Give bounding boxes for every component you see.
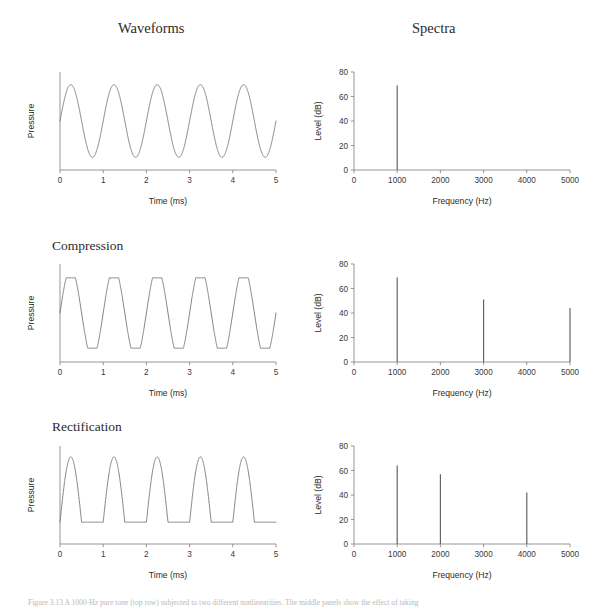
y-tick-label: 40 — [339, 309, 349, 318]
y-axis-title: Level (dB) — [313, 293, 323, 332]
x-axis-title: Frequency (Hz) — [432, 388, 491, 398]
y-axis-ticks: 020406080 — [339, 260, 354, 367]
x-tick-label: 5 — [274, 368, 279, 377]
panel-waveform-compression: 012345Time (ms)Pressure — [14, 254, 286, 402]
plot-waveform-compression: 012345Time (ms)Pressure — [14, 254, 286, 402]
x-tick-label: 0 — [58, 550, 63, 559]
x-axis-title: Time (ms) — [149, 570, 187, 580]
spectrum-peaks — [397, 277, 570, 362]
x-tick-label: 1 — [101, 550, 106, 559]
panel-spectrum-rectification: 010002000300040005000020406080Frequency … — [308, 436, 580, 584]
y-tick-label: 20 — [339, 334, 349, 343]
waveform-trace — [60, 278, 276, 348]
x-tick-label: 4 — [231, 368, 236, 377]
x-tick-label: 3 — [187, 176, 192, 185]
x-tick-label: 0 — [58, 176, 63, 185]
waveform-trace — [60, 85, 276, 158]
x-tick-label: 5 — [274, 550, 279, 559]
x-tick-label: 0 — [352, 368, 357, 377]
y-tick-label: 40 — [339, 117, 349, 126]
panel-waveform-pure-tone: 012345Time (ms)Pressure — [14, 62, 286, 210]
column-header-waveforms: Waveforms — [118, 20, 184, 37]
y-tick-label: 60 — [339, 285, 349, 294]
x-tick-label: 4 — [231, 550, 236, 559]
x-axis-title: Frequency (Hz) — [432, 570, 491, 580]
plot-spectrum-pure-tone: 010002000300040005000020406080Frequency … — [308, 62, 580, 210]
y-tick-label: 80 — [339, 442, 349, 451]
x-axis-ticks: 012345 — [58, 544, 279, 559]
figure-root: Waveforms Spectra Compression Rectificat… — [0, 0, 597, 610]
x-tick-label: 1000 — [388, 368, 407, 377]
y-tick-label: 0 — [343, 358, 348, 367]
x-tick-label: 2000 — [431, 176, 450, 185]
column-header-spectra: Spectra — [412, 20, 455, 37]
x-tick-label: 5000 — [561, 368, 580, 377]
x-tick-label: 1 — [101, 368, 106, 377]
y-axis-ticks: 020406080 — [339, 68, 354, 175]
x-tick-label: 2 — [144, 368, 149, 377]
x-axis-ticks: 012345 — [58, 170, 279, 185]
panel-spectrum-pure-tone: 010002000300040005000020406080Frequency … — [308, 62, 580, 210]
spectrum-peaks — [397, 466, 527, 544]
x-axis-ticks: 010002000300040005000 — [352, 362, 580, 377]
x-tick-label: 3000 — [474, 550, 493, 559]
x-axis-ticks: 010002000300040005000 — [352, 544, 580, 559]
x-tick-label: 3000 — [474, 368, 493, 377]
x-tick-label: 0 — [352, 550, 357, 559]
row-label-rectification: Rectification — [52, 419, 122, 435]
row-label-compression: Compression — [52, 238, 123, 254]
x-tick-label: 0 — [352, 176, 357, 185]
x-tick-label: 4 — [231, 176, 236, 185]
y-tick-label: 60 — [339, 467, 349, 476]
y-axis-title: Level (dB) — [313, 101, 323, 140]
x-tick-label: 4000 — [518, 368, 537, 377]
x-axis-ticks: 012345 — [58, 362, 279, 377]
axes — [60, 446, 276, 544]
plot-spectrum-compression: 010002000300040005000020406080Frequency … — [308, 254, 580, 402]
y-axis-ticks: 020406080 — [339, 442, 354, 549]
x-axis-ticks: 010002000300040005000 — [352, 170, 580, 185]
panel-spectrum-compression: 010002000300040005000020406080Frequency … — [308, 254, 580, 402]
y-axis-title: Pressure — [26, 296, 36, 331]
x-tick-label: 2 — [144, 176, 149, 185]
x-tick-label: 0 — [58, 368, 63, 377]
x-tick-label: 4000 — [518, 176, 537, 185]
panel-waveform-rectification: 012345Time (ms)Pressure — [14, 436, 286, 584]
x-tick-label: 1000 — [388, 550, 407, 559]
x-tick-label: 3000 — [474, 176, 493, 185]
y-axis-title: Level (dB) — [313, 475, 323, 514]
y-tick-label: 0 — [343, 540, 348, 549]
axes — [354, 446, 570, 544]
plot-waveform-pure-tone: 012345Time (ms)Pressure — [14, 62, 286, 210]
figure-caption: Figure 3.13 A 1000-Hz pure tone (top row… — [28, 598, 573, 608]
x-tick-label: 1000 — [388, 176, 407, 185]
y-tick-label: 80 — [339, 68, 349, 77]
y-tick-label: 20 — [339, 142, 349, 151]
x-tick-label: 5 — [274, 176, 279, 185]
x-axis-title: Time (ms) — [149, 196, 187, 206]
x-tick-label: 3 — [187, 368, 192, 377]
plot-waveform-rectification: 012345Time (ms)Pressure — [14, 436, 286, 584]
x-axis-title: Time (ms) — [149, 388, 187, 398]
x-tick-label: 1 — [101, 176, 106, 185]
y-axis-title: Pressure — [26, 478, 36, 513]
x-tick-label: 3 — [187, 550, 192, 559]
x-tick-label: 5000 — [561, 176, 580, 185]
y-tick-label: 60 — [339, 93, 349, 102]
y-tick-label: 40 — [339, 491, 349, 500]
x-tick-label: 2000 — [431, 550, 450, 559]
x-axis-title: Frequency (Hz) — [432, 196, 491, 206]
y-tick-label: 0 — [343, 166, 348, 175]
y-tick-label: 20 — [339, 516, 349, 525]
x-tick-label: 2000 — [431, 368, 450, 377]
axes — [354, 72, 570, 170]
plot-spectrum-rectification: 010002000300040005000020406080Frequency … — [308, 436, 580, 584]
x-tick-label: 2 — [144, 550, 149, 559]
waveform-trace — [60, 457, 276, 522]
y-axis-title: Pressure — [26, 104, 36, 139]
x-tick-label: 4000 — [518, 550, 537, 559]
x-tick-label: 5000 — [561, 550, 580, 559]
y-tick-label: 80 — [339, 260, 349, 269]
axes — [354, 264, 570, 362]
